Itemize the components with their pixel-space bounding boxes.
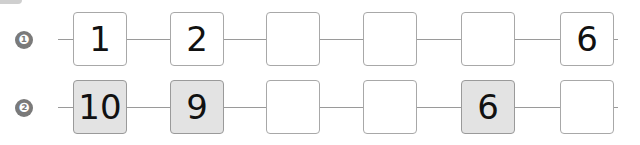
number-box: 2 <box>170 12 224 66</box>
answer-box[interactable] <box>266 80 320 134</box>
answer-box[interactable] <box>363 12 417 66</box>
number-box: 1 <box>73 12 127 66</box>
answer-box[interactable] <box>363 80 417 134</box>
number-box: 6 <box>560 12 614 66</box>
answer-box[interactable] <box>560 80 614 134</box>
number-box: 10 <box>73 80 127 134</box>
row-number-badge: ❷ <box>15 99 33 117</box>
answer-box[interactable] <box>266 12 320 66</box>
answer-box[interactable] <box>461 12 515 66</box>
corner-tab <box>0 0 22 4</box>
sequence-row-1: ❶ 1 2 6 <box>0 12 640 68</box>
connector-line <box>58 107 618 108</box>
row-number-badge: ❶ <box>15 31 33 49</box>
connector-line <box>58 39 618 40</box>
sequence-row-2: ❷ 10 9 6 <box>0 80 640 136</box>
number-box: 9 <box>170 80 224 134</box>
number-box: 6 <box>461 80 515 134</box>
